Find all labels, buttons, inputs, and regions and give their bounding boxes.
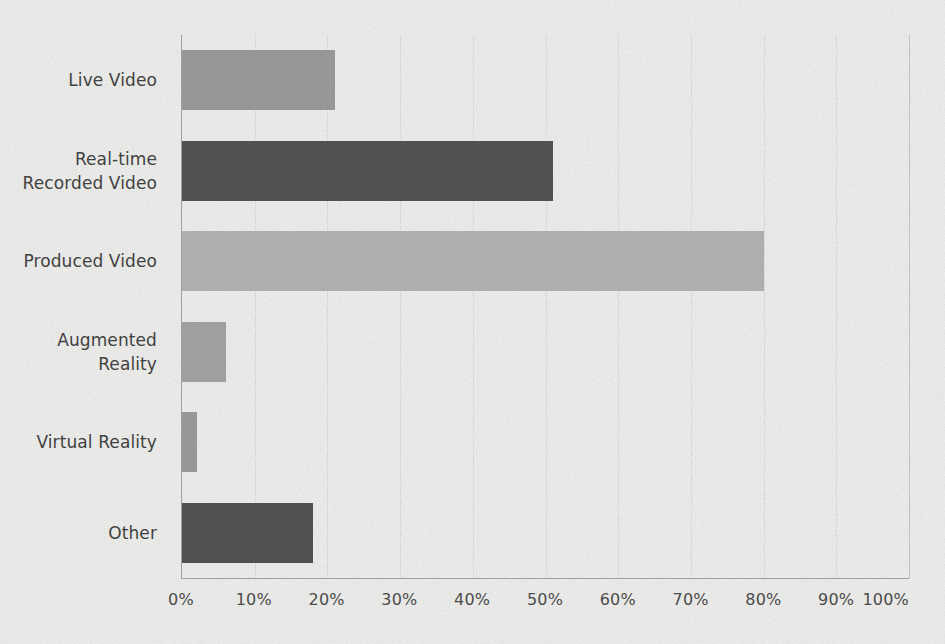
plot-area bbox=[181, 35, 909, 579]
category-label-text: Real-time Recorded Video bbox=[12, 147, 157, 195]
category-label-text: Augmented Reality bbox=[12, 328, 157, 376]
gridline-20pct bbox=[327, 35, 328, 578]
gridline-60pct bbox=[618, 35, 619, 578]
gridline-50pct bbox=[546, 35, 547, 578]
gridline-70pct bbox=[691, 35, 692, 578]
x-tick-100pct: 100% bbox=[862, 590, 909, 609]
y-axis-labels: Live VideoReal-time Recorded VideoProduc… bbox=[0, 35, 169, 578]
bar-live-video bbox=[182, 50, 335, 110]
scanned-book-page: { "page": { "background": "#fbfbf9" }, "… bbox=[0, 0, 945, 644]
x-tick-10pct: 10% bbox=[236, 590, 272, 609]
x-tick-20pct: 20% bbox=[309, 590, 345, 609]
gridline-10pct bbox=[255, 35, 256, 578]
category-label-live-video: Live Video bbox=[0, 35, 157, 126]
bar-real-time-recorded-video bbox=[182, 141, 553, 201]
gridline-100pct bbox=[909, 35, 910, 578]
category-label-text: Live Video bbox=[68, 68, 157, 92]
x-tick-30pct: 30% bbox=[381, 590, 417, 609]
category-label-virtual-reality: Virtual Reality bbox=[0, 397, 157, 488]
x-tick-90pct: 90% bbox=[818, 590, 854, 609]
x-tick-80pct: 80% bbox=[745, 590, 781, 609]
x-tick-50pct: 50% bbox=[527, 590, 563, 609]
bar-chart-figure: Live VideoReal-time Recorded VideoProduc… bbox=[0, 0, 945, 644]
category-label-text: Produced Video bbox=[23, 249, 157, 273]
category-label-produced-video: Produced Video bbox=[0, 216, 157, 307]
bar-augmented-reality bbox=[182, 322, 226, 382]
bar-virtual-reality bbox=[182, 412, 197, 472]
gridline-40pct bbox=[473, 35, 474, 578]
x-tick-70pct: 70% bbox=[673, 590, 709, 609]
category-label-text: Other bbox=[108, 521, 157, 545]
category-label-real-time-recorded-video: Real-time Recorded Video bbox=[0, 126, 157, 217]
x-tick-0pct: 0% bbox=[168, 590, 194, 609]
gridline-30pct bbox=[400, 35, 401, 578]
x-tick-40pct: 40% bbox=[454, 590, 490, 609]
category-label-augmented-reality: Augmented Reality bbox=[0, 307, 157, 398]
category-label-text: Virtual Reality bbox=[36, 430, 157, 454]
x-tick-60pct: 60% bbox=[600, 590, 636, 609]
category-label-other: Other bbox=[0, 488, 157, 579]
bar-other bbox=[182, 503, 313, 563]
x-axis-labels: 0%10%20%30%40%50%60%70%80%90%100% bbox=[181, 586, 909, 616]
gridline-90pct bbox=[836, 35, 837, 578]
gridline-80pct bbox=[764, 35, 765, 578]
bar-produced-video bbox=[182, 231, 764, 291]
